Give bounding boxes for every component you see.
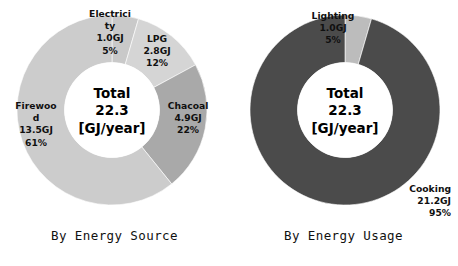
- slice-label-lighting: Lighting 1.0GJ 5%: [303, 10, 363, 47]
- slice-label-lpg-percent: 12%: [134, 57, 180, 69]
- donut-center-total-energy-source: Total 22.3 [GJ/year]: [57, 85, 167, 137]
- slice-label-lighting-name: Lighting: [303, 10, 363, 22]
- slice-label-cooking-percent: 95%: [379, 207, 451, 219]
- caption-by-energy-usage: By Energy Usage: [229, 228, 458, 243]
- slice-label-lighting-value: 1.0GJ: [303, 22, 363, 34]
- caption-by-energy-source: By Energy Source: [0, 228, 229, 243]
- center-total-unit: [GJ/year]: [290, 120, 400, 137]
- slice-label-lpg-value: 2.8GJ: [134, 45, 180, 57]
- slice-label-lighting-percent: 5%: [303, 34, 363, 46]
- slice-label-cooking: Cooking 21.2GJ 95%: [379, 183, 451, 220]
- slice-label-firewood-name-line1: Firewoo: [6, 100, 66, 112]
- slice-label-electricity-name-line2: ty: [76, 20, 144, 32]
- chart-by-energy-usage: Total 22.3 [GJ/year] Lighting 1.0GJ 5% C…: [229, 0, 458, 266]
- slice-label-cooking-name: Cooking: [379, 183, 451, 195]
- center-total-value: 22.3: [290, 102, 400, 119]
- slice-label-chacoal-value: 4.9GJ: [160, 112, 216, 124]
- slice-label-firewood-name-line2: d: [6, 112, 66, 124]
- center-total-unit: [GJ/year]: [57, 120, 167, 137]
- slice-label-chacoal-percent: 22%: [160, 124, 216, 136]
- slice-label-firewood: Firewoo d 13.5GJ 61%: [6, 100, 66, 149]
- slice-label-chacoal-name: Chacoal: [160, 100, 216, 112]
- center-total-value: 22.3: [57, 102, 167, 119]
- slice-label-firewood-value: 13.5GJ: [6, 124, 66, 136]
- slice-label-electricity-name-line1: Electrici: [76, 8, 144, 20]
- slice-label-lpg: LPG 2.8GJ 12%: [134, 33, 180, 70]
- slice-label-chacoal: Chacoal 4.9GJ 22%: [160, 100, 216, 137]
- chart-by-energy-source: Total 22.3 [GJ/year] Electrici ty 1.0GJ …: [0, 0, 229, 266]
- center-total-label: Total: [57, 85, 167, 102]
- center-total-label: Total: [290, 85, 400, 102]
- donut-center-total-energy-usage: Total 22.3 [GJ/year]: [290, 85, 400, 137]
- slice-label-lpg-name: LPG: [134, 33, 180, 45]
- slice-label-firewood-percent: 61%: [6, 137, 66, 149]
- slice-label-cooking-value: 21.2GJ: [379, 195, 451, 207]
- energy-donut-figure: Total 22.3 [GJ/year] Electrici ty 1.0GJ …: [0, 0, 458, 266]
